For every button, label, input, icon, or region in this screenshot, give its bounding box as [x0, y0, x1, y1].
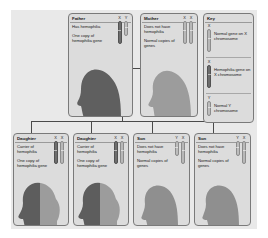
daughter-1-title: Daughter — [17, 136, 36, 141]
mother-line-1: Does not have hemophilia — [144, 24, 179, 34]
son-2-description: Does not have hemophilia Normal copies o… — [198, 144, 232, 172]
daughter-1-line-2: One copy of hemophilia gene — [17, 158, 48, 168]
chromosome-bar — [207, 65, 211, 88]
daughter-2-silhouette — [77, 172, 129, 226]
chromosome-x-normal: X — [120, 136, 124, 164]
key-label-hemophilia-x: Hemophilia gene on X chromosome — [214, 60, 253, 77]
chromosome-y-normal: Y — [236, 136, 240, 156]
father-title: Father — [72, 16, 85, 21]
chromosome-x-normal: X — [181, 136, 185, 164]
son-2-line-1: Does not have hemophilia — [198, 144, 232, 154]
father-description: Has hemophilia One copy of hemophilia ge… — [72, 24, 110, 46]
chromosome-bar — [181, 141, 185, 164]
diagram-canvas: Father Has hemophilia One copy of hemoph… — [11, 10, 257, 229]
chromosome-x-normal: X — [207, 24, 211, 52]
son-2-silhouette — [201, 174, 249, 226]
chromosome-x-normal: X — [60, 136, 64, 164]
son-2-chromosomes: Y X — [236, 136, 247, 164]
son-1-line-2: Normal copies of genes — [137, 158, 171, 168]
son-1-title: Son — [137, 136, 145, 141]
chromosome-x-hemophilia: X — [54, 136, 58, 164]
chromosome-bar — [207, 101, 211, 116]
daughter-2-line-1: Carrier of hemophilia — [77, 144, 108, 154]
person-card-father[interactable]: Father Has hemophilia One copy of hemoph… — [68, 13, 133, 117]
father-silhouette — [75, 56, 133, 117]
son-1-description: Does not have hemophilia Normal copies o… — [137, 144, 171, 172]
divider — [205, 22, 252, 23]
mother-title: Mother — [144, 16, 158, 21]
key-entry-hemophilia-x: X Hemophilia gene on X chromosome — [207, 60, 253, 88]
father-line-1: Has hemophilia — [72, 24, 110, 29]
chromosome-bar — [124, 21, 128, 36]
chromosome-bar — [60, 141, 64, 164]
key-label-normal-x: Normal gene on X chromosome — [214, 24, 253, 41]
connector-drop-daughter-1 — [31, 121, 32, 133]
chromosome-y: Y — [124, 16, 128, 36]
chromosome-bar — [183, 21, 187, 44]
chromosome-x-hemophilia: X — [118, 16, 122, 44]
key-entry-normal-y: Y Normal Y chromosome — [207, 96, 253, 116]
key-label-normal-y: Normal Y chromosome — [214, 96, 253, 113]
chromosome-bar — [120, 141, 124, 164]
person-card-son-2[interactable]: Son Does not have hemophilia Normal copi… — [194, 133, 251, 226]
pedigree-diagram: Father Has hemophilia One copy of hemoph… — [0, 0, 268, 238]
divider — [206, 93, 251, 94]
key-panel: Key X Normal gene on X chromosome X Hemo… — [203, 13, 254, 123]
father-chromosomes: X Y — [118, 16, 129, 44]
chromosome-bar — [189, 21, 193, 44]
father-line-2: One copy of hemophilia gene — [72, 33, 110, 43]
son-1-line-1: Does not have hemophilia — [137, 144, 171, 154]
chromosome-bar — [175, 141, 179, 156]
chromosome-x-hemophilia: X — [114, 136, 118, 164]
mother-line-2: Normal copies of genes — [144, 38, 179, 48]
daughter-2-chromosomes: X X — [114, 136, 125, 164]
chromosome-y-normal: Y — [207, 96, 211, 116]
daughter-1-description: Carrier of hemophilia One copy of hemoph… — [17, 144, 48, 172]
chromosome-y-normal: Y — [175, 136, 179, 156]
chromosome-x-normal-2: X — [189, 16, 193, 44]
daughter-2-description: Carrier of hemophilia One copy of hemoph… — [77, 144, 108, 172]
chromosome-bar — [54, 141, 58, 164]
connector-drop-son-1 — [152, 121, 153, 133]
daughter-2-title: Daughter — [77, 136, 96, 141]
mother-chromosomes: X X — [183, 16, 194, 44]
mother-silhouette — [147, 56, 198, 117]
chromosome-bar — [207, 29, 211, 52]
person-card-son-1[interactable]: Son Does not have hemophilia Normal copi… — [133, 133, 190, 226]
chromosome-x-hemophilia: X — [207, 60, 211, 88]
daughter-1-chromosomes: X X — [54, 136, 65, 164]
divider — [206, 57, 251, 58]
son-2-title: Son — [198, 136, 206, 141]
chromosome-bar — [242, 141, 246, 164]
connector-sibling-bus — [31, 121, 213, 122]
chromosome-bar — [236, 141, 240, 156]
son-1-silhouette — [140, 174, 188, 226]
person-card-mother[interactable]: Mother Does not have hemophilia Normal c… — [140, 13, 198, 117]
son-2-line-2: Normal copies of genes — [198, 158, 232, 168]
person-card-daughter-1[interactable]: Daughter Carrier of hemophilia One copy … — [13, 133, 69, 226]
son-1-chromosomes: Y X — [175, 136, 186, 164]
chromosome-bar — [118, 21, 122, 44]
chromosome-x-normal-1: X — [183, 16, 187, 44]
daughter-1-silhouette — [17, 172, 69, 226]
mother-description: Does not have hemophilia Normal copies o… — [144, 24, 179, 52]
key-entry-normal-x: X Normal gene on X chromosome — [207, 24, 253, 52]
key-title: Key — [207, 16, 215, 21]
daughter-1-line-1: Carrier of hemophilia — [17, 144, 48, 154]
chromosome-x-normal: X — [242, 136, 246, 164]
daughter-2-line-2: One copy of hemophilia gene — [77, 158, 108, 168]
connector-drop-daughter-2 — [91, 121, 92, 133]
chromosome-bar — [114, 141, 118, 164]
person-card-daughter-2[interactable]: Daughter Carrier of hemophilia One copy … — [73, 133, 129, 226]
